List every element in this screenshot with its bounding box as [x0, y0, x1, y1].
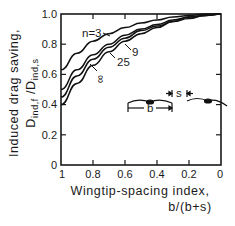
inset-s-label: s [176, 87, 182, 99]
svg-text:0.4: 0.4 [149, 168, 164, 180]
x-axis-label-line2: b/(b+s) [168, 200, 211, 214]
x-axis-label-line1: Wingtip-spacing index, [71, 184, 210, 198]
svg-text:0.8: 0.8 [85, 168, 100, 180]
x-tick-labels: 1 0.8 0.6 0.4 0.2 0 [59, 168, 223, 180]
svg-text:0.6: 0.6 [42, 68, 57, 80]
svg-text:1.0: 1.0 [42, 8, 57, 20]
svg-text:1: 1 [59, 168, 65, 180]
svg-text:0.8: 0.8 [42, 38, 57, 50]
label-infinity: ∞ [95, 75, 107, 83]
label-n9: 9 [132, 46, 138, 58]
svg-text:0.4: 0.4 [42, 98, 57, 110]
svg-text:0: 0 [217, 168, 223, 180]
chart: 0 0.2 0.4 0.6 0.8 1.0 1 0.8 0.6 0.4 0.2 … [0, 0, 235, 226]
y-tick-labels: 0 0.2 0.4 0.6 0.8 1.0 [42, 8, 57, 171]
y-axis-label-line2: Dind,f /Dind,s [24, 58, 40, 127]
svg-text:0.6: 0.6 [117, 168, 132, 180]
svg-text:0.2: 0.2 [42, 129, 57, 141]
x-ticks [93, 14, 189, 165]
y-axis-label: Induced drag saving, [7, 29, 21, 157]
y-axis-label-line1: Induced drag saving, [7, 29, 21, 157]
label-n25: 25 [117, 56, 130, 68]
inset-b-label: b [147, 102, 153, 114]
svg-text:0: 0 [51, 159, 57, 171]
svg-text:0.2: 0.2 [181, 168, 196, 180]
y-ticks [61, 44, 221, 135]
label-n3: n=3 [82, 27, 102, 39]
curve-9 [61, 14, 221, 90]
bird-2-body [205, 99, 212, 103]
svg-text:Dind,f /Dind,s: Dind,f /Dind,s [24, 58, 40, 127]
